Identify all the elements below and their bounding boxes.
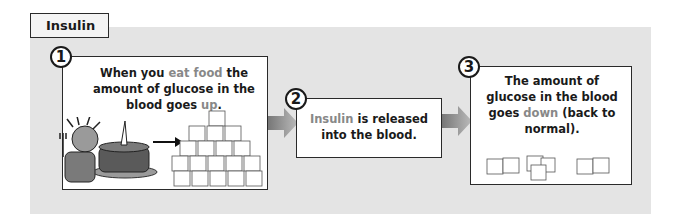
sugar-cubes-illustration [485,153,615,181]
title-label: Insulin [30,13,109,38]
number: 3 [464,58,474,76]
step-3-text: The amount of glucose in the blood goes … [485,73,619,137]
step-3-box: The amount of glucose in the blood goes … [470,66,632,185]
title-text: Insulin [46,18,95,33]
step-1-box: When you eat food the amount of glucose … [62,56,268,190]
number: 2 [291,90,301,108]
step-1-text: When you eat food the amount of glucose … [91,65,257,113]
step-2-text: Insulin is released into the blood. [297,111,441,143]
sugar-cube-pile-illustration [171,109,266,187]
arrow-right-icon [442,104,472,138]
highlight-text: down [523,106,558,120]
highlight-text: eat food [168,66,222,80]
text: When you [100,66,168,80]
number: 1 [56,48,66,66]
highlight-text: Insulin [310,112,354,126]
person-eating-cake-illustration [55,117,165,187]
step-3-number-badge: 3 [458,56,480,78]
step-2-box: Insulin is released into the blood. [296,98,442,158]
step-2-number-badge: 2 [285,88,307,110]
arrow-right-icon [268,106,298,140]
step-1-number-badge: 1 [50,46,72,68]
